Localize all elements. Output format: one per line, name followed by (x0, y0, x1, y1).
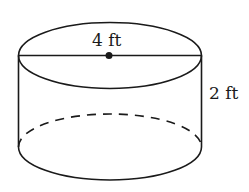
diameter-label: 4 ft (92, 30, 122, 50)
bottom-back-arc-dashed (19, 114, 202, 147)
height-label: 2 ft (209, 83, 239, 103)
center-point (106, 52, 113, 59)
bottom-front-arc (19, 147, 202, 180)
cylinder-svg: 4 ft 2 ft (0, 0, 249, 192)
cylinder-diagram: 4 ft 2 ft (0, 0, 249, 192)
